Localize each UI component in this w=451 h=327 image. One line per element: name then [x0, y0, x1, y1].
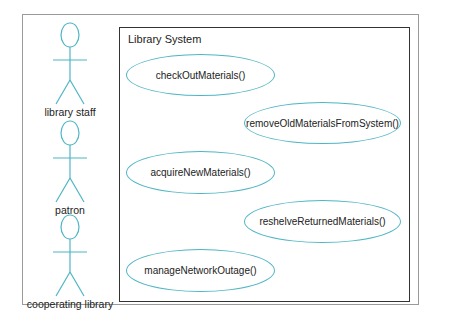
usecase-label: manageNetworkOutage(): [144, 265, 256, 276]
usecase-label: checkOutMaterials(): [156, 70, 245, 81]
usecase-label: acquireNewMaterials(): [150, 167, 250, 178]
usecase-label: removeOldMaterialsFromSystem(): [246, 118, 399, 129]
usecase-reshelve-returned-materials: reshelveReturnedMaterials(): [244, 200, 401, 243]
stick-figure-icon: [45, 214, 95, 298]
actor-cooperating-library: cooperating library: [25, 214, 115, 310]
system-title: Library System: [128, 33, 201, 45]
stick-figure-icon: [45, 120, 95, 204]
stick-figure-icon: [45, 22, 95, 106]
actor-label: cooperating library: [25, 298, 115, 310]
actor-library-staff: library staff: [25, 22, 115, 118]
usecase-check-out-materials: checkOutMaterials(): [126, 54, 275, 96]
usecase-label: reshelveReturnedMaterials(): [259, 216, 385, 227]
usecase-remove-old-materials: removeOldMaterialsFromSystem(): [244, 102, 401, 144]
actor-label: library staff: [25, 106, 115, 118]
usecase-manage-network-outage: manageNetworkOutage(): [126, 249, 275, 292]
actor-patron: patron: [25, 120, 115, 216]
usecase-acquire-new-materials: acquireNewMaterials(): [126, 151, 275, 194]
